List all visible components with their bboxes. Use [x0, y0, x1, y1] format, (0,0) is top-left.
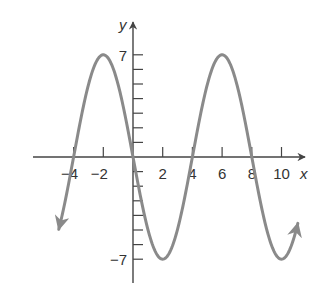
axis-labels: −4−22468107−7yx — [61, 16, 308, 268]
x-tick-label: −2 — [91, 165, 108, 182]
y-tick-label: 7 — [119, 47, 127, 64]
y-tick-label: −7 — [110, 251, 127, 268]
x-tick-label: 6 — [218, 165, 226, 182]
x-tick-label: 2 — [159, 165, 167, 182]
x-tick-label: 10 — [273, 165, 290, 182]
sine-graph: −4−22468107−7yx — [0, 0, 331, 304]
x-axis-label: x — [299, 165, 308, 182]
y-axis-label: y — [118, 16, 128, 33]
